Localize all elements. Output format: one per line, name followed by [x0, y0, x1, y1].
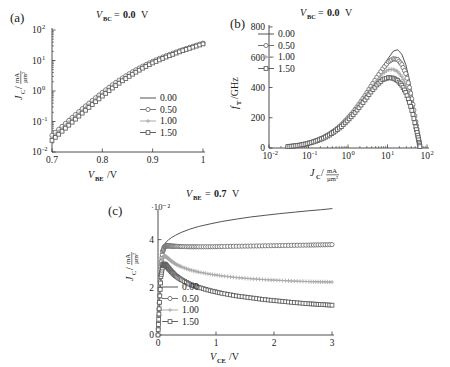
tick-label: 10 [421, 151, 431, 161]
tick-label: 10 [32, 25, 42, 35]
legend-label: 0.50 [278, 40, 295, 51]
legend-label: 1.50 [182, 316, 199, 327]
series-line [52, 44, 203, 138]
tick-exponent: -1 [312, 149, 318, 156]
data-marker-circle [168, 296, 172, 300]
x-tick-label: 2 [272, 338, 277, 348]
panel-b: (b) V BC = 0.0 V 10-210-1100101102020040… [222, 0, 450, 185]
panel-b-xlabel-den: µm² [327, 175, 338, 182]
y-tick-label: 2 [149, 283, 154, 293]
tick-label: 10 [32, 86, 42, 96]
data-marker-square [408, 100, 412, 104]
series-1.00 [50, 41, 205, 139]
legend-label: 1.00 [160, 115, 177, 126]
tick-exponent: -1 [42, 115, 48, 122]
legend-item-0.00[interactable]: 0.00 [162, 281, 199, 292]
data-marker-plus [146, 119, 150, 123]
figure-root: (a) V BC = 0.0 V 0.70.80.9110-210-110010… [0, 0, 450, 367]
data-marker-square [418, 145, 422, 149]
data-marker-square [158, 294, 162, 298]
x-tick-label: 0 [156, 338, 161, 348]
legend-item-1.50[interactable]: 1.50 [140, 127, 177, 138]
data-marker-plus [199, 270, 203, 274]
panel-b-ylabel: f T /GHz [229, 77, 242, 109]
series-0.50 [286, 57, 422, 149]
series-line [52, 43, 203, 135]
panel-b-title: V BC = 0.0 V [300, 7, 353, 20]
tick-label: 10 [32, 56, 42, 66]
legend-item-1.00[interactable]: 1.00 [162, 304, 199, 315]
panel-b-ylabel-unit: /GHz [229, 77, 240, 99]
data-marker-square [264, 67, 268, 71]
data-marker-plus [201, 271, 205, 275]
panel-b-label: (b) [230, 16, 245, 31]
tick-exponent: 0 [352, 149, 356, 156]
panel-a: (a) V BC = 0.0 V 0.70.80.9110-210-110010… [0, 0, 225, 185]
data-marker-circle [146, 107, 150, 111]
tick-exponent: 1 [391, 149, 394, 156]
panel-a-title-unit: V [141, 9, 149, 20]
series-1.50 [286, 76, 422, 149]
data-marker-circle [405, 76, 409, 80]
legend-item-0.50[interactable]: 0.50 [140, 104, 177, 115]
panel-b-title-val: 0.0 [327, 7, 340, 18]
data-marker-square [156, 333, 160, 337]
series-1.50 [50, 42, 205, 142]
axis-spines [52, 28, 205, 152]
panel-c-y-multiplier: ·10⁻² [151, 202, 170, 212]
tick-exponent: 2 [431, 149, 434, 156]
x-tick-label: 0.8 [96, 155, 108, 165]
panel-b-title-unit: V [345, 7, 353, 18]
legend-label: 0.50 [182, 293, 199, 304]
panel-c-plot-area: 0123024 [149, 209, 334, 348]
legend-item-1.50[interactable]: 1.50 [258, 63, 295, 74]
panel-a-ylabel-slash: / [13, 86, 24, 89]
data-marker-square [330, 303, 334, 307]
panel-a-legend: 0.000.501.001.50 [140, 92, 177, 138]
panel-a-title: V BC = 0.0 V [96, 9, 149, 22]
tick-exponent: 0 [42, 84, 46, 91]
panel-c-label: (c) [108, 203, 122, 218]
panel-b-ylabel-sub: T [235, 100, 242, 105]
data-marker-square [157, 307, 161, 311]
panel-a-ylabel-den: µm² [21, 72, 28, 83]
legend-item-1.50[interactable]: 1.50 [162, 316, 199, 327]
data-marker-square [146, 131, 150, 135]
data-marker-square [156, 328, 160, 332]
y-tick-label: 600 [251, 53, 266, 63]
data-marker-circle [406, 81, 410, 85]
data-marker-plus [330, 280, 334, 284]
tick-label: 10 [381, 151, 391, 161]
x-tick-label: 0.9 [147, 155, 159, 165]
panel-a-xlabel: V BE /V [88, 169, 118, 182]
data-marker-square [157, 312, 161, 316]
panel-c-title-unit: V [232, 188, 240, 199]
data-marker-square [412, 117, 416, 121]
data-marker-plus [168, 308, 172, 312]
panel-c-legend: 0.000.501.001.50 [162, 281, 199, 327]
legend-item-0.50[interactable]: 0.50 [162, 293, 199, 304]
data-marker-square [159, 281, 163, 285]
y-tick-label: 4 [149, 235, 154, 245]
panel-a-title-val: 0.0 [123, 9, 136, 20]
legend-item-0.50[interactable]: 0.50 [258, 40, 295, 51]
tick-label: 10 [302, 151, 312, 161]
x-tick-label: 1 [214, 338, 219, 348]
data-marker-circle [264, 43, 268, 47]
data-marker-circle [404, 71, 408, 75]
panel-b-xlabel-slash: / [321, 167, 324, 178]
legend-label: 1.50 [160, 127, 177, 138]
legend-item-0.00[interactable]: 0.00 [140, 92, 177, 103]
panel-c-ylabel-var: J [124, 276, 135, 281]
panel-b-xlabel-num: mA [327, 167, 337, 174]
panel-a-label: (a) [10, 10, 24, 25]
legend-item-1.00[interactable]: 1.00 [140, 115, 177, 126]
data-marker-square [411, 113, 415, 117]
legend-label: 0.00 [278, 28, 295, 39]
panel-b-svg: (b) V BC = 0.0 V 10-210-1100101102020040… [222, 0, 450, 185]
legend-label: 1.50 [278, 63, 295, 74]
panel-a-title-sub: BC [103, 15, 112, 22]
panel-a-plot-area: 0.70.80.9110-210-1100101102 [32, 23, 206, 165]
y-tick-label: 200 [251, 113, 266, 123]
tick-label: 10 [32, 147, 42, 157]
